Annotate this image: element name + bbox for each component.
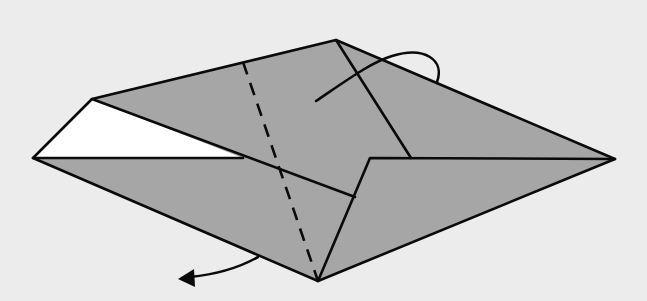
origami-diagram: [0, 0, 647, 301]
diagram-canvas: [0, 0, 647, 301]
